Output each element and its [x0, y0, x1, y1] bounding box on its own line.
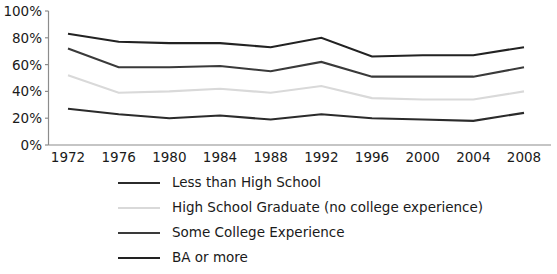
- legend-item-label: Some College Experience: [172, 226, 345, 240]
- x-tick-label: 2004: [456, 149, 490, 165]
- x-tick-label: 1996: [355, 149, 389, 165]
- x-tick-label: 1976: [101, 149, 135, 165]
- x-tick-label: 2000: [405, 149, 439, 165]
- series-line: [68, 75, 524, 99]
- legend-item[interactable]: High School Graduate (no college experie…: [118, 195, 548, 220]
- y-tick-label: 20%: [12, 110, 42, 126]
- x-tick-label: 1992: [304, 149, 338, 165]
- series-line: [68, 34, 524, 57]
- y-tick-label: 0%: [21, 137, 43, 153]
- y-tick-label: 100%: [3, 3, 42, 19]
- legend-swatch-icon: [118, 207, 160, 209]
- chart-legend: Less than High SchoolHigh School Graduat…: [118, 170, 548, 270]
- y-tick-label: 60%: [12, 57, 42, 73]
- x-tick-label: 1988: [253, 149, 287, 165]
- legend-item-label: Less than High School: [172, 176, 321, 190]
- legend-swatch-icon: [118, 232, 160, 234]
- legend-item-label: BA or more: [172, 251, 248, 265]
- y-axis-tick-labels: 0%20%40%60%80%100%: [3, 3, 42, 153]
- legend-item[interactable]: Less than High School: [118, 170, 548, 195]
- legend-swatch-icon: [118, 257, 160, 259]
- legend-item-label: High School Graduate (no college experie…: [172, 201, 483, 215]
- legend-item[interactable]: Some College Experience: [118, 220, 548, 245]
- series-group: [68, 34, 524, 121]
- x-tick-label: 1980: [152, 149, 186, 165]
- x-tick-label: 1972: [51, 149, 85, 165]
- x-tick-label: 2008: [507, 149, 541, 165]
- series-line: [68, 109, 524, 121]
- legend-swatch-icon: [118, 182, 160, 184]
- plot-area: 0%20%40%60%80%100% 197219761980198419881…: [0, 0, 557, 165]
- chart-figure: 0%20%40%60%80%100% 197219761980198419881…: [0, 0, 557, 274]
- series-line: [68, 49, 524, 77]
- line-chart-svg: 0%20%40%60%80%100% 197219761980198419881…: [0, 0, 557, 165]
- y-tick-label: 80%: [12, 30, 42, 46]
- x-tick-label: 1984: [203, 149, 237, 165]
- legend-item[interactable]: BA or more: [118, 245, 548, 270]
- x-axis-tick-labels: 1972197619801984198819921996200020042008: [51, 149, 541, 165]
- y-tick-label: 40%: [12, 83, 42, 99]
